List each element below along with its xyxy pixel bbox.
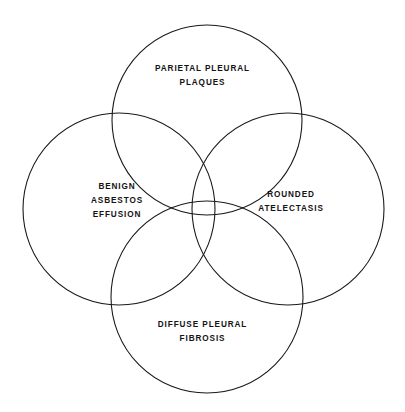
label-line: DIFFUSE PLEURAL <box>0 318 405 332</box>
label-line: ASBESTOS <box>22 194 212 208</box>
label-line: PARIETAL PLEURAL <box>0 62 405 76</box>
label-line: ATELECTASIS <box>196 202 386 216</box>
label-parietal-pleural-plaques: PARIETAL PLEURAL PLAQUES <box>0 62 405 90</box>
label-rounded-atelectasis: ROUNDED ATELECTASIS <box>196 188 386 216</box>
label-line: ROUNDED <box>196 188 386 202</box>
label-benign-asbestos-effusion: BENIGN ASBESTOS EFFUSION <box>22 180 212 222</box>
label-line: FIBROSIS <box>0 332 405 346</box>
label-line: BENIGN <box>22 180 212 194</box>
label-diffuse-pleural-fibrosis: DIFFUSE PLEURAL FIBROSIS <box>0 318 405 346</box>
label-line: PLAQUES <box>0 76 405 90</box>
label-line: EFFUSION <box>22 208 212 222</box>
venn-diagram: PARIETAL PLEURAL PLAQUES BENIGN ASBESTOS… <box>0 0 405 412</box>
